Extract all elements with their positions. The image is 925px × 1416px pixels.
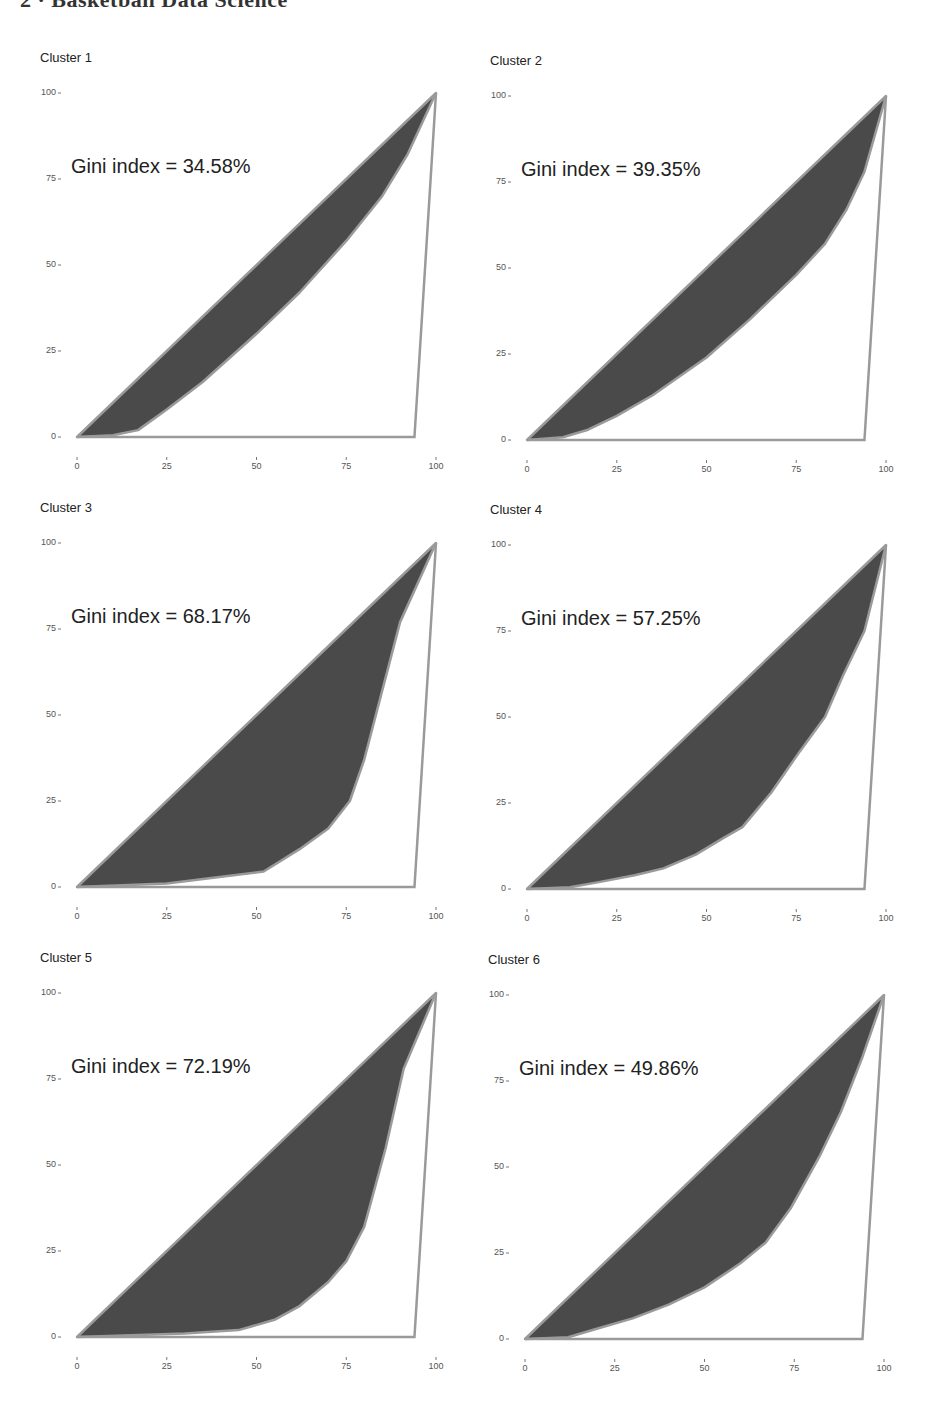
x-tick-label: 25	[600, 1363, 630, 1373]
y-tick-label: 50	[466, 262, 506, 272]
y-tick-label: 100	[464, 989, 504, 999]
x-tick-label: 0	[512, 913, 542, 923]
x-tick-label: 75	[781, 464, 811, 474]
x-tick-label: 50	[692, 464, 722, 474]
y-tick-label: 75	[16, 623, 56, 633]
x-tick-label: 100	[871, 464, 901, 474]
lorenz-plot	[470, 502, 920, 952]
gini-area	[77, 543, 436, 887]
x-tick-label: 100	[421, 911, 451, 921]
y-tick-label: 0	[466, 434, 506, 444]
gini-area	[527, 96, 886, 440]
y-tick-label: 0	[466, 883, 506, 893]
y-tick-label: 0	[16, 1331, 56, 1341]
y-tick-label: 75	[466, 625, 506, 635]
x-tick-label: 25	[152, 911, 182, 921]
lorenz-plot	[470, 53, 920, 503]
y-tick-label: 25	[464, 1247, 504, 1257]
gini-index-label: Gini index = 49.86%	[519, 1057, 699, 1080]
x-tick-label: 50	[692, 913, 722, 923]
lorenz-panel-cluster-2: Cluster 210075502500255075100Gini index …	[470, 53, 920, 503]
x-tick-label: 100	[869, 1363, 899, 1373]
lorenz-panel-cluster-5: Cluster 510075502500255075100Gini index …	[20, 950, 470, 1400]
gini-index-label: Gini index = 72.19%	[71, 1055, 251, 1078]
y-tick-label: 0	[16, 431, 56, 441]
x-tick-label: 75	[331, 461, 361, 471]
y-tick-label: 100	[466, 539, 506, 549]
gini-area	[525, 995, 884, 1339]
x-tick-label: 25	[152, 461, 182, 471]
x-tick-label: 50	[242, 1361, 272, 1371]
y-tick-label: 0	[464, 1333, 504, 1343]
y-tick-label: 75	[464, 1075, 504, 1085]
y-tick-label: 50	[16, 709, 56, 719]
gini-index-label: Gini index = 57.25%	[521, 607, 701, 630]
y-tick-label: 100	[466, 90, 506, 100]
lorenz-plot	[468, 952, 918, 1402]
gini-index-label: Gini index = 39.35%	[521, 158, 701, 181]
lorenz-panel-cluster-4: Cluster 410075502500255075100Gini index …	[470, 502, 920, 952]
x-tick-label: 75	[781, 913, 811, 923]
x-tick-label: 50	[690, 1363, 720, 1373]
lorenz-plot	[20, 500, 470, 950]
y-tick-label: 0	[16, 881, 56, 891]
x-tick-label: 25	[152, 1361, 182, 1371]
x-tick-label: 25	[602, 464, 632, 474]
y-tick-label: 25	[16, 795, 56, 805]
lorenz-panel-cluster-6: Cluster 610075502500255075100Gini index …	[468, 952, 918, 1402]
x-tick-label: 50	[242, 461, 272, 471]
x-tick-label: 100	[421, 1361, 451, 1371]
y-tick-label: 25	[466, 348, 506, 358]
x-tick-label: 100	[421, 461, 451, 471]
gini-index-label: Gini index = 68.17%	[71, 605, 251, 628]
y-tick-label: 50	[16, 259, 56, 269]
y-tick-label: 25	[16, 345, 56, 355]
y-tick-label: 75	[466, 176, 506, 186]
y-tick-label: 100	[16, 537, 56, 547]
x-tick-label: 0	[62, 911, 92, 921]
gini-area	[77, 93, 436, 437]
y-tick-label: 100	[16, 987, 56, 997]
gini-index-label: Gini index = 34.58%	[71, 155, 251, 178]
y-tick-label: 50	[16, 1159, 56, 1169]
x-tick-label: 0	[512, 464, 542, 474]
x-tick-label: 75	[779, 1363, 809, 1373]
x-tick-label: 75	[331, 911, 361, 921]
y-tick-label: 75	[16, 173, 56, 183]
gini-area	[77, 993, 436, 1337]
lorenz-plot	[20, 950, 470, 1400]
y-tick-label: 25	[16, 1245, 56, 1255]
x-tick-label: 0	[62, 461, 92, 471]
running-head: 2 · Basketball Data Science	[20, 0, 288, 13]
lorenz-plot	[20, 50, 470, 500]
y-tick-label: 75	[16, 1073, 56, 1083]
y-tick-label: 25	[466, 797, 506, 807]
x-tick-label: 100	[871, 913, 901, 923]
y-tick-label: 50	[466, 711, 506, 721]
y-tick-label: 100	[16, 87, 56, 97]
x-tick-label: 0	[510, 1363, 540, 1373]
x-tick-label: 0	[62, 1361, 92, 1371]
gini-area	[527, 545, 886, 889]
y-tick-label: 50	[464, 1161, 504, 1171]
x-tick-label: 25	[602, 913, 632, 923]
x-tick-label: 75	[331, 1361, 361, 1371]
x-tick-label: 50	[242, 911, 272, 921]
lorenz-panel-cluster-3: Cluster 310075502500255075100Gini index …	[20, 500, 470, 950]
lorenz-panel-cluster-1: Cluster 110075502500255075100Gini index …	[20, 50, 470, 500]
